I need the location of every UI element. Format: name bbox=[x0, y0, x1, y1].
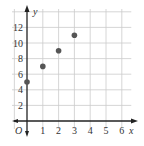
data-point bbox=[24, 79, 30, 85]
x-tick-label: 3 bbox=[72, 125, 77, 136]
x-axis-label: x bbox=[128, 125, 134, 136]
y-tick-label: 4 bbox=[18, 84, 23, 95]
y-tick-label: 2 bbox=[18, 100, 23, 111]
scatter-chart: 24681012 123456 y x O bbox=[0, 0, 144, 146]
x-tick-labels: 123456 bbox=[40, 125, 124, 136]
y-axis-down-arrow-icon bbox=[25, 131, 29, 137]
y-tick-label: 6 bbox=[18, 69, 23, 80]
x-tick-label: 1 bbox=[40, 125, 45, 136]
data-point bbox=[56, 48, 62, 54]
y-tick-label: 8 bbox=[18, 53, 23, 64]
x-axis-arrow-icon bbox=[131, 119, 138, 124]
data-point bbox=[72, 32, 78, 38]
origin-label: O bbox=[15, 125, 22, 136]
x-axis-left-arrow-icon bbox=[12, 119, 18, 123]
x-tick-label: 6 bbox=[119, 125, 124, 136]
grid bbox=[12, 9, 131, 129]
y-axis-label: y bbox=[32, 6, 38, 17]
x-tick-label: 2 bbox=[56, 125, 61, 136]
y-tick-label: 10 bbox=[13, 38, 23, 49]
data-point bbox=[40, 64, 46, 70]
y-tick-label: 12 bbox=[13, 22, 23, 33]
x-tick-label: 4 bbox=[88, 125, 93, 136]
y-axis-arrow-icon bbox=[25, 5, 30, 12]
axes bbox=[12, 5, 138, 137]
x-tick-label: 5 bbox=[104, 125, 109, 136]
